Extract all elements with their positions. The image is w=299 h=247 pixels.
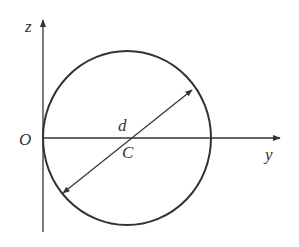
center-label: C: [122, 143, 134, 162]
circle-diagram: z y O d C: [0, 0, 299, 247]
diameter-label: d: [118, 116, 127, 135]
z-axis-label: z: [24, 17, 32, 36]
y-axis-label: y: [263, 145, 273, 164]
origin-label: O: [19, 130, 31, 149]
diameter-arrow: [63, 90, 192, 193]
